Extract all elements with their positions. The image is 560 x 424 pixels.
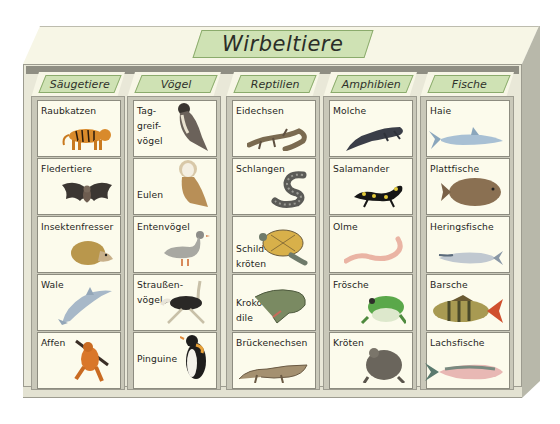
newt-icon: [344, 119, 406, 151]
cell-taggreifvoegel: Tag- greif- vögel: [133, 100, 217, 157]
owl-icon: [176, 159, 210, 209]
column-label: Fische: [427, 75, 510, 93]
column-amphibien: Amphibien Molche Salamander Olme Frösche…: [323, 72, 417, 390]
fire-salamander-icon: [350, 179, 406, 209]
cell-haie: Haie: [426, 100, 510, 157]
cell-eidechsen: Eidechsen: [232, 100, 316, 157]
snake-icon: [269, 171, 309, 209]
cell-kroeten: Kröten: [329, 332, 413, 389]
shelf-side: [522, 26, 540, 398]
penguin-icon: [180, 333, 210, 383]
cell-fledertiere: Fledertiere: [37, 158, 121, 215]
falcon-icon: [174, 101, 210, 151]
cell-barsche: Barsche: [426, 274, 510, 331]
column-body: Molche Salamander Olme Frösche Kröten: [323, 96, 417, 390]
cell-pinguine: Pinguine: [133, 332, 217, 389]
cell-insektenfresser: Insektenfresser: [37, 216, 121, 273]
herring-icon: [437, 249, 503, 267]
column-label: Vögel: [134, 75, 217, 93]
tiger-icon: [62, 123, 114, 151]
turtle-icon: [257, 227, 309, 267]
perch-icon: [429, 295, 503, 325]
bat-icon: [60, 179, 114, 209]
cell-lachsfische: Lachsfische: [426, 332, 510, 389]
ostrich-icon: [160, 279, 210, 325]
column-body: Eidechsen Schlangen Schild- kröten Kroko…: [226, 96, 320, 390]
toad-icon: [362, 343, 406, 383]
column-label: Reptilien: [233, 75, 316, 93]
column-body: Raubkatzen Fledertiere Insektenfresser W…: [31, 96, 125, 390]
hedgehog-icon: [70, 237, 114, 267]
title-label: Wirbeltiere: [192, 30, 373, 58]
column-body: Tag- greif- vögel Eulen Entenvögel Strau…: [127, 96, 221, 390]
cell-schlangen: Schlangen: [232, 158, 316, 215]
cell-raubkatzen: Raubkatzen: [37, 100, 121, 157]
salmon-icon: [425, 361, 503, 383]
flatfish-icon: [439, 175, 503, 209]
page-title: Wirbeltiere: [222, 32, 343, 56]
lizard-icon: [247, 127, 309, 151]
olm-icon: [344, 235, 406, 267]
column-body: Haie Plattfische Heringsfische Barsche L…: [420, 96, 514, 390]
cell-salamander: Salamander: [329, 158, 413, 215]
cell-eulen: Eulen: [133, 158, 217, 215]
column-label: Säugetiere: [38, 75, 121, 93]
cell-olme: Olme: [329, 216, 413, 273]
cell-brueckenechsen: Brückenechsen: [232, 332, 316, 389]
cell-krokodile: Kroko- dile: [232, 274, 316, 331]
dolphin-icon: [56, 283, 114, 325]
frog-icon: [360, 291, 406, 325]
column-reptilien: Reptilien Eidechsen Schlangen Schild- kr…: [226, 72, 320, 390]
column-label: Amphibien: [330, 75, 413, 93]
column-voegel: Vögel Tag- greif- vögel Eulen Entenvögel…: [127, 72, 221, 390]
cell-straussenvoegel: Straußen- vögel: [133, 274, 217, 331]
tuatara-icon: [237, 357, 309, 383]
vertebrate-shelf-diagram: Wirbeltiere Säugetiere Raubkatzen Fleder…: [0, 0, 560, 424]
column-saeugetiere: Säugetiere Raubkatzen Fledertiere Insekt…: [31, 72, 125, 390]
cell-wale: Wale: [37, 274, 121, 331]
cell-affen: Affen: [37, 332, 121, 389]
cell-molche: Molche: [329, 100, 413, 157]
crocodile-icon: [253, 283, 309, 325]
shark-icon: [427, 127, 503, 151]
cell-heringsfische: Heringsfische: [426, 216, 510, 273]
orangutan-icon: [68, 337, 114, 383]
cell-entenvoegel: Entenvögel: [133, 216, 217, 273]
goose-icon: [160, 229, 210, 267]
column-fische: Fische Haie Plattfische Heringsfische Ba…: [420, 72, 514, 390]
cell-schildkroeten: Schild- kröten: [232, 216, 316, 273]
cell-plattfische: Plattfische: [426, 158, 510, 215]
cell-froesche: Frösche: [329, 274, 413, 331]
